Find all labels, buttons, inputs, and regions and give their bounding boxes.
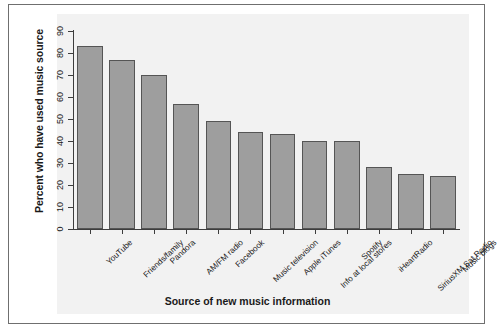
x-axis-tick bbox=[379, 230, 380, 234]
y-axis-tick-label: 90 bbox=[55, 25, 65, 38]
y-axis-tick-label: 40 bbox=[55, 135, 65, 148]
x-axis-tick bbox=[347, 230, 348, 234]
bar bbox=[270, 134, 296, 229]
x-axis-tick bbox=[315, 230, 316, 234]
x-axis-tick bbox=[218, 230, 219, 234]
x-axis-tick bbox=[283, 230, 284, 234]
bar bbox=[238, 132, 264, 229]
bar bbox=[109, 60, 135, 229]
y-axis-tick bbox=[68, 97, 73, 98]
bar bbox=[366, 167, 392, 229]
y-axis-tick bbox=[68, 31, 73, 32]
x-axis-tick-label: YouTube bbox=[105, 238, 135, 267]
x-axis-title: Source of new music information bbox=[9, 295, 486, 307]
y-axis-tick-label: 70 bbox=[55, 69, 65, 82]
y-axis-tick bbox=[68, 207, 73, 208]
chart-figure-frame: Percent who have used music source 01020… bbox=[8, 4, 485, 324]
y-axis-title: Percent who have used music source bbox=[33, 21, 45, 221]
x-axis-tick-label: Info at local stores bbox=[338, 238, 393, 290]
x-axis-tick bbox=[443, 230, 444, 234]
bar bbox=[398, 174, 424, 229]
bar bbox=[334, 141, 360, 229]
x-axis-tick bbox=[411, 230, 412, 234]
x-axis-tick-label: Music blogs bbox=[461, 238, 498, 274]
y-axis-tick bbox=[68, 75, 73, 76]
x-axis-tick bbox=[90, 230, 91, 234]
x-axis-tick bbox=[154, 230, 155, 234]
y-axis-tick-label: 30 bbox=[55, 157, 65, 170]
bar bbox=[206, 121, 232, 229]
bar-chart: Percent who have used music source 01020… bbox=[9, 5, 486, 325]
y-axis-tick bbox=[68, 229, 73, 230]
y-axis-tick bbox=[68, 119, 73, 120]
x-axis-line bbox=[73, 229, 460, 230]
y-axis-tick-label: 20 bbox=[55, 179, 65, 192]
y-axis-tick-label: 50 bbox=[55, 113, 65, 126]
y-axis-tick-label: 60 bbox=[55, 91, 65, 104]
y-axis-tick-label: 80 bbox=[55, 47, 65, 60]
bar bbox=[430, 176, 456, 229]
bar bbox=[173, 104, 199, 229]
x-axis-tick bbox=[250, 230, 251, 234]
y-axis-tick bbox=[68, 53, 73, 54]
bar bbox=[141, 75, 167, 229]
bar bbox=[302, 141, 328, 229]
x-axis-tick-label: iHeartRadio bbox=[396, 238, 434, 274]
bar bbox=[77, 46, 103, 229]
y-axis-tick bbox=[68, 141, 73, 142]
y-axis-tick-label: 10 bbox=[55, 201, 65, 214]
x-axis-tick bbox=[122, 230, 123, 234]
y-axis-tick bbox=[68, 163, 73, 164]
y-axis-tick-label: 0 bbox=[55, 223, 65, 236]
x-axis-tick bbox=[186, 230, 187, 234]
y-axis-tick bbox=[68, 185, 73, 186]
